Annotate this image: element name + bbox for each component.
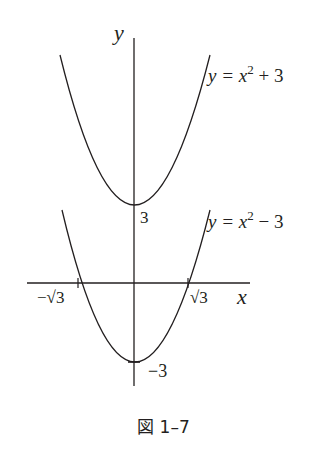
upper-curve-label-base: y = x [208, 65, 247, 86]
upper-curve-label: y = x2 + 3 [208, 66, 283, 85]
lower-curve-label: y = x2 − 3 [208, 212, 283, 231]
lower-curve-label-base: y = x [208, 211, 247, 232]
upper-curve-label-suffix: + 3 [254, 65, 284, 86]
lower-vertex-label: −3 [148, 362, 167, 380]
curve-upper-parabola [60, 55, 210, 205]
upper-vertex-label: 3 [140, 209, 149, 226]
neg-root-label: −√3 [37, 289, 64, 306]
lower-curve-label-suffix: − 3 [254, 211, 284, 232]
pos-root-label: √3 [190, 289, 208, 306]
y-axis-label: y [114, 22, 124, 44]
upper-curve-label-exp: 2 [247, 62, 254, 77]
lower-curve-label-exp: 2 [247, 208, 254, 223]
x-axis-label: x [237, 286, 247, 308]
figure-caption: 図 1–7 [0, 413, 327, 438]
